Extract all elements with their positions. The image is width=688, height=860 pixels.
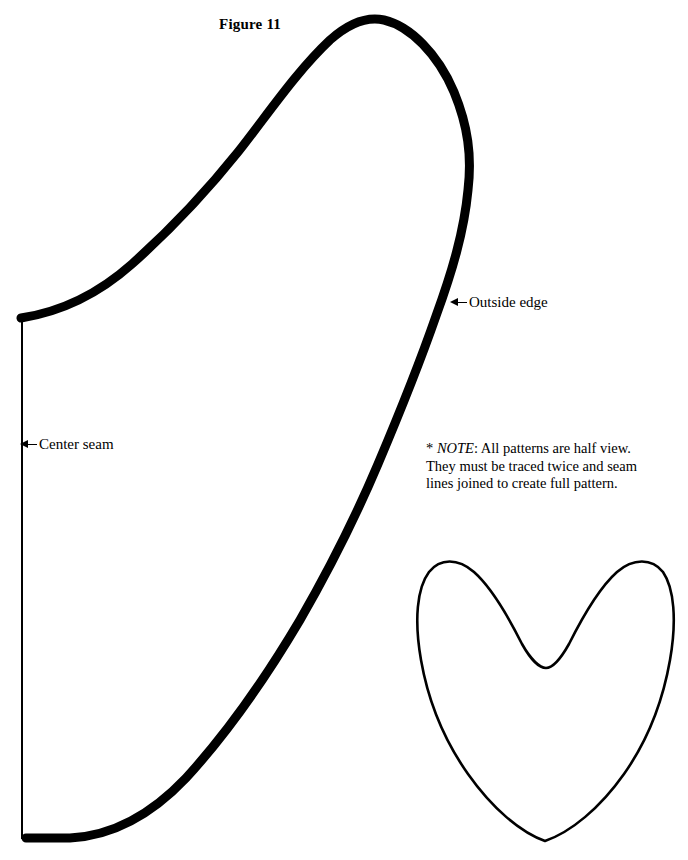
figure-label: Figure 11 — [170, 16, 330, 33]
callout-center-seam: Center seam — [20, 437, 114, 452]
callout-outside-edge: Outside edge — [450, 295, 548, 310]
note-block: * NOTE: All patterns are half view. They… — [426, 440, 676, 493]
heart-pattern-outline — [417, 562, 673, 842]
callout-center-seam-label: Center seam — [39, 437, 114, 452]
note-emphasis: NOTE — [437, 440, 474, 456]
half-pattern-outline — [21, 19, 469, 838]
pattern-page: Figure 11 Outside edge Center seam * NOT… — [0, 0, 688, 860]
note-line-2: They must be traced twice and seam — [426, 458, 676, 476]
arrow-left-icon — [450, 297, 467, 308]
note-line-1: * NOTE: All patterns are half view. — [426, 440, 676, 458]
pattern-drawing — [0, 0, 688, 860]
note-line-1-rest: : All patterns are half view. — [474, 440, 631, 456]
arrow-left-icon — [20, 439, 37, 450]
note-line-3: lines joined to create full pattern. — [426, 475, 676, 493]
callout-outside-edge-label: Outside edge — [469, 295, 548, 310]
arrow-tail-shape — [27, 444, 37, 446]
note-marker: * — [426, 440, 433, 456]
arrow-tail-shape — [457, 302, 467, 304]
